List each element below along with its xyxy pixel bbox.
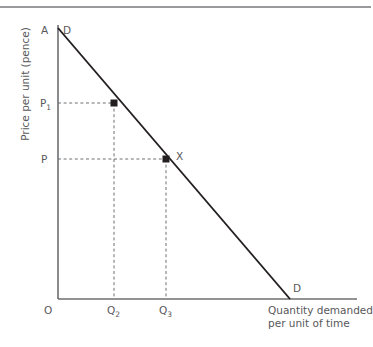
label-p1: P1 [40,97,51,110]
label-curve-bottom-d: D [293,282,301,294]
label-point-x: X [176,150,183,162]
x-axis-caption-line2: per unit of time [268,317,373,330]
label-origin: O [44,304,52,316]
label-q2: Q2 [107,304,120,317]
x-axis-caption-line1: Quantity demanded [268,304,373,317]
point-marker-p1-q2 [111,100,118,107]
label-a: A [41,24,48,36]
label-q3-subscript: 3 [167,310,172,319]
point-marker-x [163,156,170,163]
label-p: P [41,153,47,165]
demand-curve-line [58,28,290,299]
label-curve-top-d: D [63,24,71,36]
x-axis-caption: Quantity demanded per unit of time [268,304,373,329]
y-axis-label: Price per unit (pence) [19,19,31,149]
label-q3: Q3 [159,304,172,317]
label-p1-subscript: 1 [46,103,51,112]
label-q2-subscript: 2 [115,310,120,319]
